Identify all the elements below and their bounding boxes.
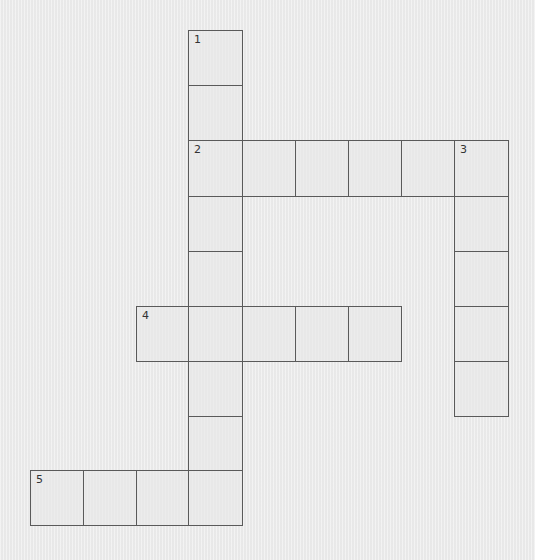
crossword-cell[interactable] [83, 470, 137, 526]
crossword-cell[interactable] [188, 361, 243, 417]
crossword-cell[interactable] [242, 140, 296, 197]
clue-number: 4 [142, 310, 149, 322]
crossword-cell[interactable] [348, 140, 402, 197]
crossword-cell[interactable] [242, 306, 296, 362]
crossword-grid: 1 2 3 [0, 0, 535, 560]
crossword-cell-1-down-start[interactable]: 1 [188, 30, 243, 86]
crossword-cell[interactable] [188, 416, 243, 471]
clue-number: 3 [460, 144, 467, 156]
crossword-cell[interactable] [188, 306, 243, 362]
crossword-cell[interactable] [136, 470, 189, 526]
crossword-cell-2-across-start[interactable]: 2 [188, 140, 243, 197]
crossword-cell[interactable] [188, 85, 243, 141]
crossword-cell[interactable] [401, 140, 455, 197]
crossword-cell[interactable] [454, 306, 509, 362]
clue-number: 1 [194, 34, 201, 46]
clue-number: 5 [36, 474, 43, 486]
crossword-cell[interactable] [295, 140, 349, 197]
crossword-cell[interactable] [454, 361, 509, 417]
crossword-cell[interactable] [454, 196, 509, 252]
clue-number: 2 [194, 144, 201, 156]
crossword-cell-5-across-start[interactable]: 5 [30, 470, 84, 526]
crossword-cell[interactable] [188, 470, 243, 526]
crossword-cell[interactable] [348, 306, 402, 362]
crossword-cell[interactable] [454, 251, 509, 307]
crossword-cell-4-across-start[interactable]: 4 [136, 306, 189, 362]
crossword-cell[interactable] [188, 251, 243, 307]
crossword-cell-3-down-start[interactable]: 3 [454, 140, 509, 197]
crossword-cell[interactable] [188, 196, 243, 252]
crossword-cell[interactable] [295, 306, 349, 362]
